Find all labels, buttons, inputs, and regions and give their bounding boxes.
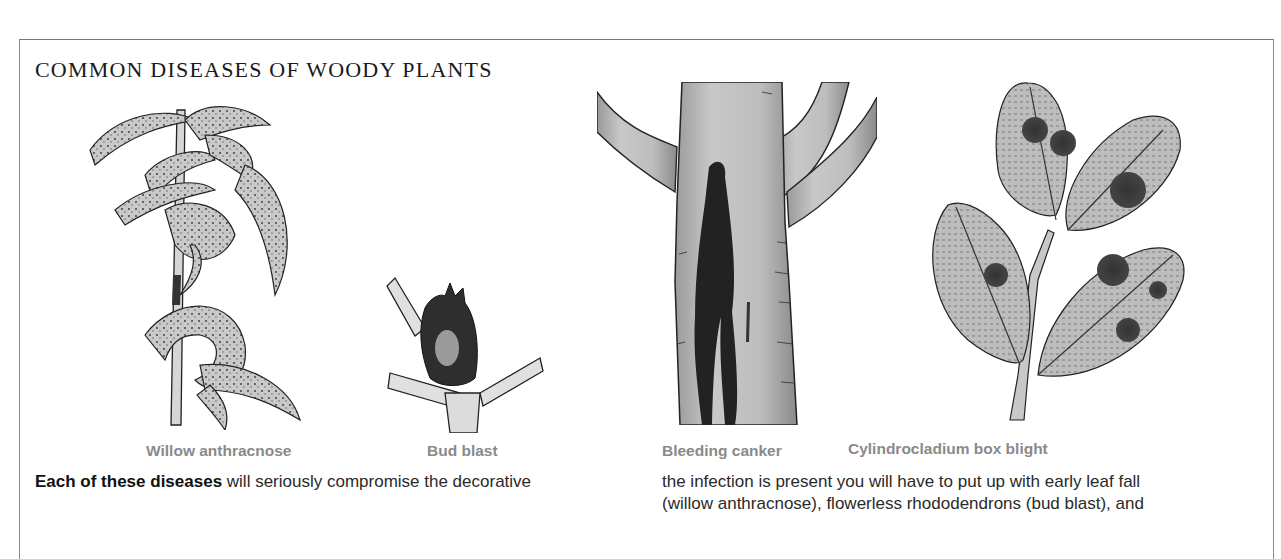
bleeding-canker-illustration: [597, 82, 877, 425]
caption-willow-anthracnose: Willow anthracnose: [146, 442, 291, 460]
page-title: COMMON DISEASES OF WOODY PLANTS: [35, 57, 493, 83]
body-lead-bold: Each of these diseases: [35, 472, 222, 491]
body-right-line-2: (willow anthracnose), flowerless rhodode…: [662, 491, 1144, 516]
bud-blast-illustration: [385, 268, 545, 433]
willow-anthracnose-illustration: [85, 95, 315, 430]
body-left-line-1: Each of these diseases will seriously co…: [35, 469, 531, 494]
box-blight-illustration: [918, 75, 1188, 425]
caption-bud-blast: Bud blast: [427, 442, 498, 460]
caption-bleeding-canker: Bleeding canker: [662, 442, 782, 460]
caption-box-blight: Cylindrocladium box blight: [848, 440, 1048, 458]
body-left-rest: will seriously compromise the decorative: [222, 472, 531, 491]
